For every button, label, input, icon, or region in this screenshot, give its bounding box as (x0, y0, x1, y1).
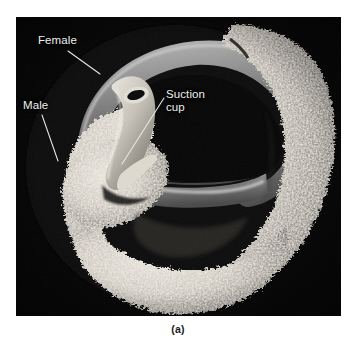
figure-root: Female Male Suctioncup (a) (0, 0, 356, 344)
label-male: Male (23, 99, 48, 112)
label-suction-cup-line2: cup (166, 101, 185, 113)
label-suction-cup-line1: Suction (166, 88, 205, 100)
label-suction-cup: Suctioncup (166, 88, 205, 113)
micrograph-panel: Female Male Suctioncup (16, 17, 341, 316)
panel-vignette (16, 17, 341, 316)
label-female: Female (38, 34, 77, 47)
micrograph-image (16, 17, 341, 316)
figure-caption: (a) (0, 323, 356, 335)
